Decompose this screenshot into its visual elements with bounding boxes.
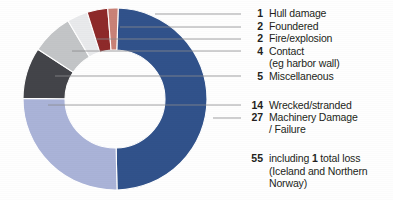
chart-figure: 1 Hull damage 2 Foundered 2 Fire/explosi… <box>0 0 393 200</box>
legend-count: 1 <box>244 7 263 19</box>
donut-chart <box>0 0 232 200</box>
legend-item-wrecked-stranded: 14 Wrecked/stranded <box>244 99 352 111</box>
legend-label: Hull damage <box>269 7 326 19</box>
donut-chart-svg <box>0 0 232 200</box>
donut-slice-machinery-damage-failure[interactable] <box>116 8 207 190</box>
legend-total-prefix: including <box>269 152 312 164</box>
donut-slices <box>23 8 207 190</box>
legend-count: 27 <box>244 111 263 123</box>
legend-count: 14 <box>244 99 263 111</box>
legend-total-count: 55 <box>244 152 263 165</box>
legend-label-main: Contact <box>269 45 304 57</box>
legend-total: 55 including 1 total loss (Iceland and N… <box>244 152 389 190</box>
legend-item-machinery-damage: 27 Machinery Damage / Failure <box>244 111 358 136</box>
legend-count: 2 <box>244 32 263 44</box>
legend-label: Fire/explosion <box>269 32 332 44</box>
legend-count: 4 <box>244 45 263 57</box>
legend-label-sub: (eg harbor wall) <box>269 57 340 69</box>
legend-total-text: including 1 total loss (Iceland and Nort… <box>269 152 389 190</box>
legend-label-main: Machinery Damage <box>269 111 358 123</box>
legend-label-sub: / Failure <box>269 123 358 135</box>
legend-item-hull-damage: 1 Hull damage <box>244 7 326 19</box>
legend-count: 2 <box>244 20 263 32</box>
legend-label: Machinery Damage / Failure <box>269 111 358 136</box>
legend-total-suffix: total <box>318 152 340 164</box>
legend-item-contact: 4 Contact (eg harbor wall) <box>244 45 340 70</box>
legend-label: Wrecked/stranded <box>269 99 352 111</box>
legend: 1 Hull damage 2 Foundered 2 Fire/explosi… <box>244 0 393 200</box>
legend-label: Contact (eg harbor wall) <box>269 45 340 70</box>
legend-item-foundered: 2 Foundered <box>244 20 318 32</box>
legend-item-miscellaneous: 5 Miscellaneous <box>244 70 334 82</box>
legend-label: Miscellaneous <box>269 70 334 82</box>
donut-slice-wrecked-stranded[interactable] <box>23 98 117 190</box>
legend-count: 5 <box>244 70 263 82</box>
legend-label: Foundered <box>269 20 318 32</box>
legend-item-fire-explosion: 2 Fire/explosion <box>244 32 332 44</box>
